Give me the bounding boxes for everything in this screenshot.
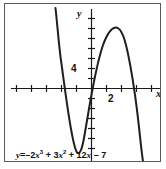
plot-frame: y x 4 2 y=–2x3 + 3x2 + 12x – 7 — [4, 3, 161, 162]
equation-term4-sign: – — [94, 150, 99, 160]
y-axis-label: y — [77, 9, 81, 19]
graph-figure: y x 4 2 y=–2x3 + 3x2 + 12x – 7 — [0, 0, 166, 169]
equation-term3-var: x — [87, 150, 92, 160]
graph-canvas — [5, 4, 161, 162]
equation-term2-sign: + — [46, 150, 51, 160]
cubic-curve — [56, 8, 144, 162]
x-axis-label: x — [156, 89, 161, 99]
equation-label: y=–2x3 + 3x2 + 12x – 7 — [16, 150, 106, 160]
equation-term3-coef: 12 — [77, 150, 87, 160]
x-tick-label-2: 2 — [108, 94, 114, 104]
y-tick-label-4: 4 — [71, 64, 77, 74]
equation-term2-exponent: 2 — [63, 149, 66, 155]
equation-term4-const: 7 — [101, 150, 106, 160]
equation-term3-sign: + — [69, 150, 74, 160]
equation-term1-exponent: 3 — [40, 149, 43, 155]
